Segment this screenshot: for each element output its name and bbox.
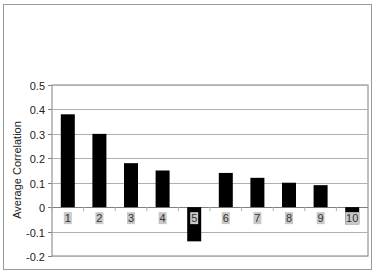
bar-8 [282,183,296,207]
y-tick-label: 0.3 [30,129,45,141]
bar-4 [156,171,170,208]
x-axis-category-labels: 12345678910 [64,212,359,224]
y-tick-label: -0.1 [26,227,45,239]
category-label: 4 [160,212,166,224]
bar-3 [124,163,138,207]
y-tick-label: 0.5 [30,80,45,92]
bar-2 [92,134,106,207]
category-label: 10 [346,212,358,224]
category-label: 5 [191,212,197,224]
category-label: 8 [286,212,292,224]
bar-6 [219,173,233,207]
category-label: 3 [128,212,134,224]
category-label: 2 [96,212,102,224]
category-label: 1 [65,212,71,224]
bar-7 [250,178,264,207]
y-tick-label: 0.2 [30,153,45,165]
y-tick-label: 0 [39,202,45,214]
bar-9 [314,185,328,207]
y-axis-label: Average Correlation [11,121,23,219]
y-tick-label: 0.4 [30,104,45,116]
bar-chart: 0.50.40.30.20.10-0.1-0.2 12345678910 Ave… [0,0,378,273]
y-axis-ticks: 0.50.40.30.20.10-0.1-0.2 [26,80,45,263]
category-label: 6 [223,212,229,224]
y-tick-label: -0.2 [26,251,45,263]
category-label: 9 [318,212,324,224]
category-label: 7 [254,212,260,224]
bars [61,114,359,241]
bar-1 [61,114,75,207]
y-tick-label: 0.1 [30,178,45,190]
